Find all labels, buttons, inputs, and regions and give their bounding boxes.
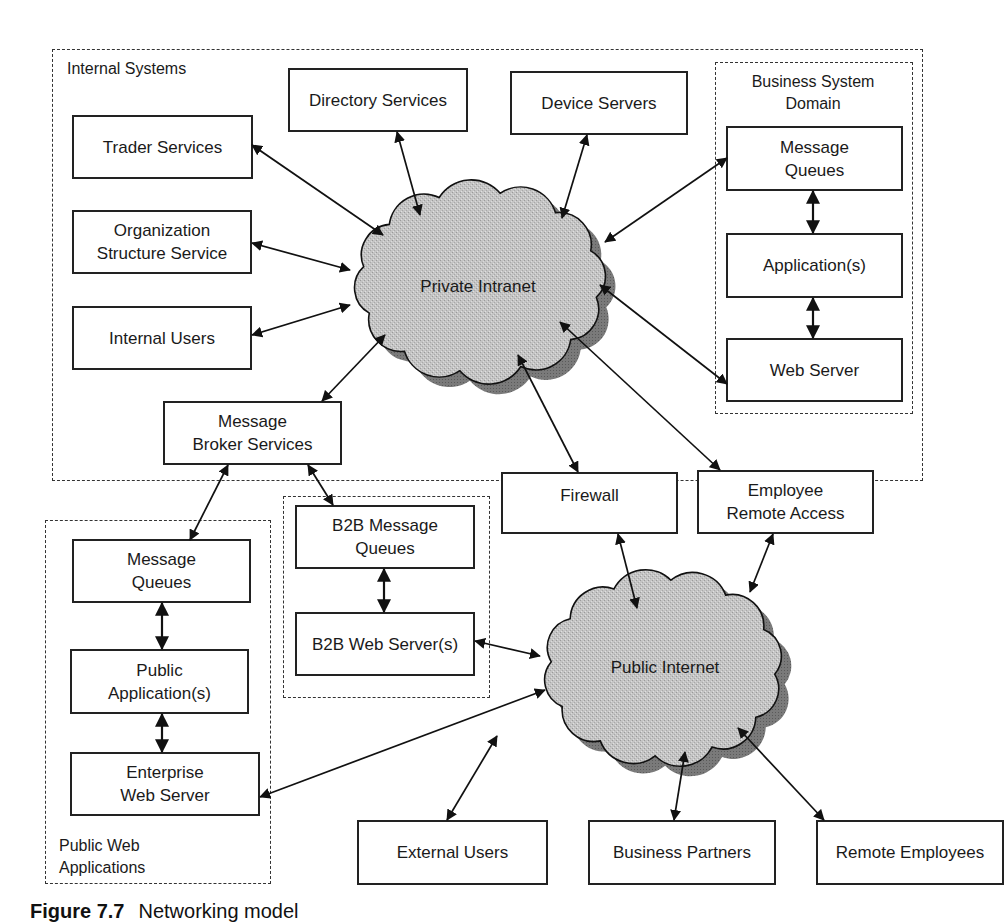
business-partners-box: Business Partners [588,820,776,885]
bsd-applications-box: Application(s) [726,233,903,298]
public-web-applications-label: Public Web Applications [59,835,145,879]
b2b-web-servers-box: B2B Web Server(s) [295,612,475,676]
external-users-box: External Users [357,820,548,885]
trader-services-box: Trader Services [72,115,253,179]
employee-remote-access-box: Employee Remote Access [697,470,874,534]
device-servers-box: Device Servers [510,71,688,135]
private-intranet-label: Private Intranet [420,277,535,297]
pub-message-queues-box: Message Queues [72,539,251,603]
figure-number: Figure 7.7 [30,900,124,922]
figure-caption: Figure 7.7Networking model [30,900,299,923]
remote-employees-box: Remote Employees [816,820,1004,885]
business-system-domain-label: Business System Domain [725,71,901,115]
organization-structure-service-box: Organization Structure Service [72,210,252,274]
bsd-message-queues-box: Message Queues [726,126,903,191]
internal-users-box: Internal Users [72,306,252,370]
bsd-web-server-box: Web Server [726,338,903,402]
directory-services-box: Directory Services [288,68,468,132]
message-broker-services-box: Message Broker Services [163,401,342,465]
public-internet-label: Public Internet [611,658,720,678]
b2b-message-queues-box: B2B Message Queues [295,505,475,569]
public-applications-box: Public Application(s) [70,649,249,714]
figure-title: Networking model [138,900,298,922]
firewall-box: Firewall [501,472,678,534]
internal-systems-label: Internal Systems [67,58,186,80]
enterprise-web-server-box: Enterprise Web Server [70,752,260,816]
